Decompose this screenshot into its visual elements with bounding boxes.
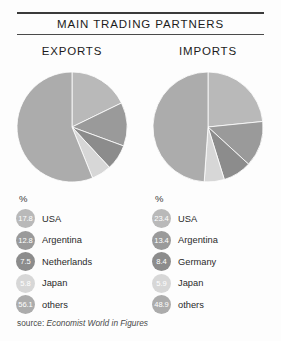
legend-badge: 8.4	[152, 252, 171, 271]
pie-svg-exports	[16, 71, 128, 183]
infographic-page: MAIN TRADING PARTNERS EXPORTS % 17.8 USA…	[0, 0, 281, 341]
legend-unit-label-imports: %	[155, 193, 270, 204]
legend-badge: 7.5	[16, 252, 35, 271]
source-publication: Economist World in Figures	[47, 318, 148, 328]
legend-label: Japan	[178, 278, 203, 288]
legend-label: Germany	[178, 257, 216, 267]
chart-title-imports: IMPORTS	[146, 45, 270, 61]
source-note: source: Economist World in Figures	[17, 318, 148, 328]
legend-badge: 56.1	[16, 295, 35, 314]
legend-label: Argentina	[178, 235, 218, 245]
list-item: 56.1 others	[16, 295, 134, 314]
legend-imports: % 23.4 USA 13.4 Argentina 8.4 Germany 5.…	[146, 193, 270, 314]
list-item: 8.4 Germany	[152, 252, 270, 271]
legend-unit-label-exports: %	[19, 193, 134, 204]
pie-chart-exports	[16, 71, 128, 183]
chart-column-imports: IMPORTS % 23.4 USA 13.4 Argentina 8.4 Ge…	[146, 45, 270, 317]
list-item: 5.9 Japan	[152, 274, 270, 293]
list-item: 13.4 Argentina	[152, 231, 270, 250]
pie-slice	[208, 72, 263, 127]
pie-slices-exports	[17, 72, 127, 182]
list-item: 12.8 Argentina	[16, 231, 134, 250]
legend-badge: 5.9	[152, 274, 171, 293]
legend-label: others	[178, 300, 204, 310]
source-prefix: source:	[17, 318, 44, 328]
pie-slices-imports	[153, 72, 263, 182]
list-item: 48.9 others	[152, 295, 270, 314]
pie-slice	[153, 72, 208, 182]
pie-chart-imports	[152, 71, 264, 183]
chart-column-exports: EXPORTS % 17.8 USA 12.8 Argentina 7.5 Ne…	[10, 45, 134, 317]
legend-badge: 5.8	[16, 274, 35, 293]
legend-label: USA	[178, 214, 197, 224]
list-item: 17.8 USA	[16, 209, 134, 228]
legend-badge: 17.8	[16, 209, 35, 228]
list-item: 23.4 USA	[152, 209, 270, 228]
title-rule-bottom	[17, 34, 264, 35]
legend-label: others	[42, 300, 68, 310]
title-block: MAIN TRADING PARTNERS	[17, 12, 264, 35]
legend-badge: 48.9	[152, 295, 171, 314]
legend-badge: 12.8	[16, 231, 35, 250]
legend-badge: 23.4	[152, 209, 171, 228]
legend-badge: 13.4	[152, 231, 171, 250]
legend-label: USA	[42, 214, 61, 224]
legend-label: Argentina	[42, 235, 82, 245]
list-item: 7.5 Netherlands	[16, 252, 134, 271]
legend-label: Japan	[42, 278, 67, 288]
legend-exports: % 17.8 USA 12.8 Argentina 7.5 Netherland…	[10, 193, 134, 314]
chart-title-exports: EXPORTS	[10, 45, 134, 61]
page-title: MAIN TRADING PARTNERS	[17, 14, 264, 34]
legend-label: Netherlands	[42, 257, 92, 267]
pie-svg-imports	[152, 71, 264, 183]
list-item: 5.8 Japan	[16, 274, 134, 293]
